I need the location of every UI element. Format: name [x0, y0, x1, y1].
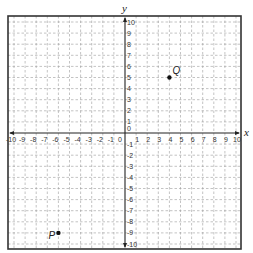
point-q-label: Q [172, 65, 180, 76]
y-tick-label: -1 [127, 141, 133, 148]
y-tick-label: 5 [127, 74, 131, 81]
x-tick-label: -1 [108, 136, 114, 143]
y-tick-label: 6 [127, 63, 131, 70]
x-tick-label: -9 [19, 136, 25, 143]
plotted-points: QP [48, 65, 180, 241]
x-tick-label: 8 [213, 136, 217, 143]
y-tick-label: -6 [127, 196, 133, 203]
y-tick-label: 8 [127, 41, 131, 48]
y-tick-label: 9 [127, 30, 131, 37]
x-axis-label: x [243, 126, 249, 138]
y-tick-label: -8 [127, 218, 133, 225]
point-p-marker [56, 231, 60, 235]
point-q-marker [167, 75, 171, 79]
x-tick-label: -10 [6, 136, 16, 143]
axes [10, 18, 239, 247]
x-tick-label: 10 [233, 136, 241, 143]
y-tick-label: -4 [127, 174, 133, 181]
y-tick-label: 2 [127, 107, 131, 114]
coordinate-plane: -10-9-8-7-6-5-4-3-2-1012345678910-10-9-8… [0, 0, 253, 253]
x-tick-label: -7 [41, 136, 47, 143]
y-tick-label: 0 [127, 125, 131, 132]
y-axis-label: y [121, 2, 127, 14]
y-tick-label: -9 [127, 229, 133, 236]
x-tick-label: 0 [118, 136, 122, 143]
x-tick-label: -4 [74, 136, 80, 143]
x-tick-label: 9 [224, 136, 228, 143]
x-tick-label: 6 [191, 136, 195, 143]
x-tick-label: -2 [97, 136, 103, 143]
x-tick-label: 1 [135, 136, 139, 143]
x-tick-label: -5 [63, 136, 69, 143]
x-tick-label: 2 [146, 136, 150, 143]
y-tick-label: -5 [127, 185, 133, 192]
y-tick-label: 4 [127, 85, 131, 92]
x-tick-label: -6 [52, 136, 58, 143]
x-tick-label: -8 [30, 136, 36, 143]
y-tick-label: 1 [127, 118, 131, 125]
y-tick-label: -3 [127, 163, 133, 170]
x-tick-label: -3 [86, 136, 92, 143]
x-tick-label: 7 [202, 136, 206, 143]
x-tick-label: 5 [180, 136, 184, 143]
y-tick-label: -2 [127, 152, 133, 159]
y-tick-label: -7 [127, 207, 133, 214]
y-tick-label: 7 [127, 52, 131, 59]
y-tick-label: 10 [127, 19, 135, 26]
point-p-label: P [48, 230, 55, 241]
y-tick-label: 3 [127, 96, 131, 103]
y-tick-label: -10 [127, 241, 137, 248]
x-tick-label: 3 [157, 136, 161, 143]
x-tick-label: 4 [168, 136, 172, 143]
